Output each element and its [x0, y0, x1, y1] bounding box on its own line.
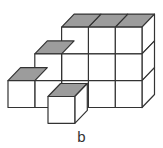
cube-front-front-face: [48, 97, 75, 124]
cube-c4-r1-front-face: [115, 54, 142, 81]
cube-stack-diagram: [0, 0, 163, 148]
cube-c4-r2-front-face: [115, 27, 142, 54]
cube-c0-r0-front-face: [8, 81, 35, 108]
cube-c4-r0-front-face: [115, 81, 142, 108]
cube-c3-r2-front-face: [88, 27, 115, 54]
figure-caption: b: [0, 128, 163, 145]
cube-c2-r1-front-face: [62, 54, 89, 81]
cube-c3-r0-front-face: [88, 81, 115, 108]
cube-c3-r1-front-face: [88, 54, 115, 81]
